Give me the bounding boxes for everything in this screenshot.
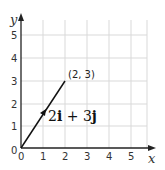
x-axis-label: x (148, 151, 156, 166)
vector-label-coef-i: 2 (48, 108, 57, 124)
x-tick-2: 2 (62, 151, 68, 162)
y-tick-1: 1 (11, 121, 17, 132)
y-tick-4: 4 (11, 53, 17, 64)
y-axis-arrowhead-icon (18, 13, 24, 21)
endpoint-label: (2, 3) (68, 69, 95, 80)
x-tick-3: 3 (84, 151, 90, 162)
vector-label: 2i + 3j (48, 108, 97, 124)
vector-label-j: j (90, 108, 97, 124)
x-tick-0: 0 (18, 151, 24, 162)
vector-diagram: x y 0 1 2 3 4 5 0 1 2 3 4 5 (2, 3) 2i + … (0, 0, 165, 170)
y-tick-2: 2 (11, 99, 17, 110)
y-tick-5: 5 (11, 30, 17, 41)
y-tick-labels: 0 1 2 3 4 5 (11, 30, 17, 156)
vector-label-coef-j: 3 (83, 108, 92, 124)
x-tick-4: 4 (106, 151, 112, 162)
x-tick-5: 5 (128, 151, 134, 162)
x-tick-labels: 0 1 2 3 4 5 (18, 151, 134, 162)
grid (21, 20, 147, 148)
y-tick-0: 0 (11, 145, 17, 156)
vector-label-plus: + (62, 108, 83, 124)
y-tick-3: 3 (11, 76, 17, 87)
y-axis-label: y (9, 12, 18, 27)
x-tick-1: 1 (40, 151, 46, 162)
